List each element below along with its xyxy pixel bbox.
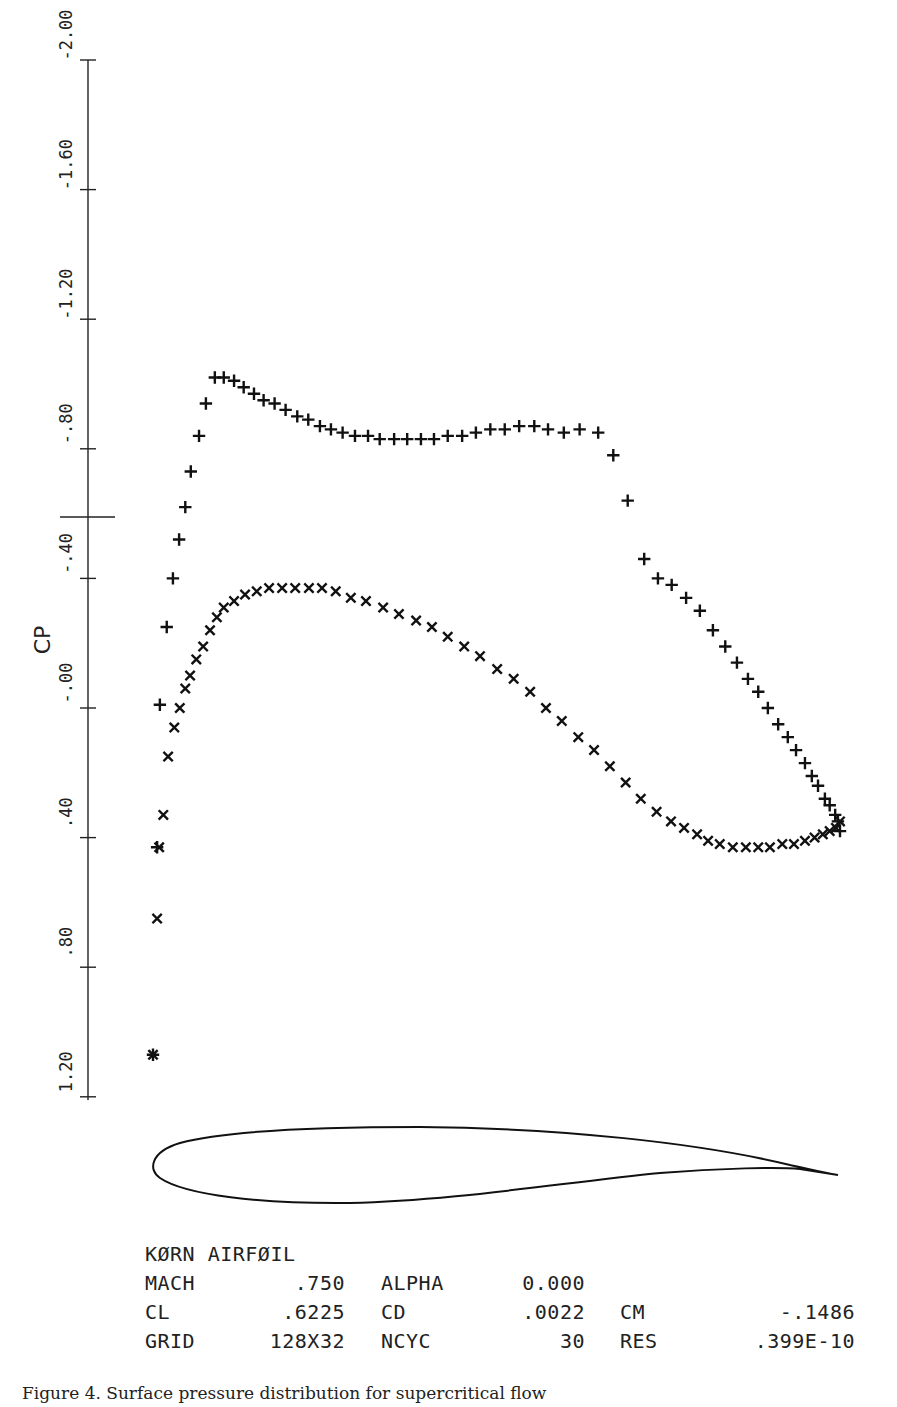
lower-surface-point	[206, 626, 214, 634]
lower-surface-point	[667, 818, 675, 826]
lower-surface-point	[164, 753, 172, 761]
upper-surface-point	[429, 434, 439, 444]
series-lower-surface	[149, 584, 844, 1058]
lower-surface-point	[220, 604, 228, 612]
y-tick-label: 1.20	[56, 1051, 76, 1092]
run-parameters: KØRN AIRFØIL MACH .750 ALPHA 0.000 CL .6…	[145, 1240, 195, 1356]
upper-surface-point	[457, 431, 467, 441]
lower-surface-point	[278, 584, 286, 592]
lower-surface-point	[693, 831, 701, 839]
lower-surface-point	[318, 584, 326, 592]
upper-surface-point	[800, 758, 810, 768]
upper-surface-point	[350, 431, 360, 441]
upper-surface-point	[239, 382, 249, 392]
upper-surface-point	[270, 398, 280, 408]
ncyc-value: 30	[475, 1327, 585, 1356]
grid-value: 128X32	[235, 1327, 345, 1356]
lower-surface-point	[790, 840, 798, 848]
upper-surface-point	[807, 771, 817, 781]
info-row-grid: GRID 128X32 NCYC 30 RES .399E-10	[145, 1327, 195, 1356]
upper-surface-point	[443, 431, 453, 441]
cl-label: CL	[145, 1298, 170, 1327]
lower-surface-point	[170, 724, 178, 732]
upper-surface-point	[773, 719, 783, 729]
cm-label: CM	[620, 1298, 645, 1327]
upper-surface-point	[162, 622, 172, 632]
y-tick-label: .40	[56, 797, 76, 828]
lower-surface-point	[637, 795, 645, 803]
lower-surface-point	[510, 675, 518, 683]
y-axis-label: CP	[30, 626, 55, 655]
lower-surface-point	[778, 840, 786, 848]
lower-surface-point	[574, 733, 582, 741]
info-title-row: KØRN AIRFØIL	[145, 1240, 195, 1269]
upper-surface-point	[514, 421, 524, 431]
lower-surface-point	[622, 779, 630, 787]
lower-surface-point	[558, 717, 566, 725]
upper-surface-point	[763, 703, 773, 713]
lower-surface-point	[412, 617, 420, 625]
lower-surface-point	[801, 837, 809, 845]
upper-surface-point	[720, 641, 730, 651]
airfoil-name: KØRN AIRFØIL	[145, 1240, 296, 1269]
upper-surface-point	[791, 745, 801, 755]
upper-surface-point	[485, 424, 495, 434]
lower-surface-point	[766, 844, 774, 852]
lower-surface-point	[213, 613, 221, 621]
y-tick-label: .80	[56, 927, 76, 958]
lower-surface-point	[742, 844, 750, 852]
upper-surface-point	[303, 415, 313, 425]
upper-surface-point	[229, 376, 239, 386]
upper-surface-point	[180, 502, 190, 512]
upper-surface-point	[593, 428, 603, 438]
lower-surface-point	[379, 604, 387, 612]
upper-surface-point	[708, 625, 718, 635]
upper-surface-point	[402, 434, 412, 444]
lower-surface-point	[754, 844, 762, 852]
lower-surface-point	[160, 811, 168, 819]
upper-surface-point	[292, 411, 302, 421]
lower-surface-point	[395, 610, 403, 618]
upper-surface-point	[338, 428, 348, 438]
res-value: .399E-10	[705, 1327, 855, 1356]
upper-surface-point	[653, 573, 663, 583]
lower-surface-point	[729, 844, 737, 852]
upper-surface-point	[543, 424, 553, 434]
lower-surface-point	[680, 824, 688, 832]
upper-surface-point	[667, 580, 677, 590]
y-tick-label: -.00	[56, 663, 76, 704]
lower-surface-point	[230, 597, 238, 605]
upper-surface-point	[363, 431, 373, 441]
lower-surface-point	[493, 665, 501, 673]
upper-surface-point	[174, 535, 184, 545]
lower-surface-point	[199, 643, 207, 651]
upper-surface-point	[825, 800, 835, 810]
airfoil-outline	[153, 1127, 838, 1203]
cd-label: CD	[381, 1298, 406, 1327]
upper-surface-point	[623, 496, 633, 506]
lower-surface-point	[186, 672, 194, 680]
lower-surface-point	[176, 704, 184, 712]
lower-surface-point	[542, 704, 550, 712]
upper-surface-point	[608, 450, 618, 460]
upper-surface-point	[186, 466, 196, 476]
mach-value: .750	[235, 1269, 345, 1298]
lower-surface-point	[460, 643, 468, 651]
lower-surface-point	[362, 597, 370, 605]
lower-surface-point	[265, 584, 273, 592]
upper-surface-point	[681, 593, 691, 603]
mach-label: MACH	[145, 1269, 195, 1298]
upper-surface-point	[219, 373, 229, 383]
info-row-cl: CL .6225 CD .0022 CM -.1486	[145, 1298, 195, 1327]
grid-label: GRID	[145, 1327, 195, 1356]
upper-surface-point	[315, 421, 325, 431]
upper-surface-point	[695, 606, 705, 616]
upper-surface-point	[201, 398, 211, 408]
upper-surface-point	[326, 424, 336, 434]
alpha-value: 0.000	[475, 1269, 585, 1298]
series-upper-surface	[148, 373, 845, 1060]
lower-surface-point	[653, 808, 661, 816]
upper-surface-point	[559, 428, 569, 438]
cm-value: -.1486	[705, 1298, 855, 1327]
